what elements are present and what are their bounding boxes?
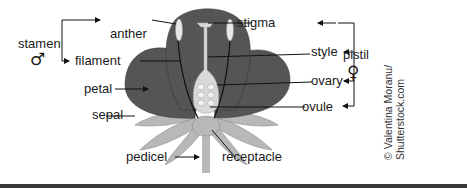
receptacle-shape xyxy=(192,116,220,136)
label-receptacle: receptacle xyxy=(222,150,282,164)
label-stigma: stigma xyxy=(237,16,275,30)
bottom-border xyxy=(0,184,467,188)
label-anther: anther xyxy=(110,27,147,41)
male-symbol-icon: ♂ xyxy=(30,51,45,68)
label-pistil: pistil xyxy=(343,48,369,62)
label-pedicel: pedicel xyxy=(126,150,167,164)
credit-line-1: © Valentina Moranu/ xyxy=(382,65,394,160)
label-petal: petal xyxy=(84,82,112,96)
flower-diagram: stamen ♂ anther filament petal sepal ped… xyxy=(0,0,467,188)
label-filament: filament xyxy=(75,54,121,68)
label-style: style xyxy=(311,45,338,59)
image-credit: © Valentina Moranu/ Shutterstock.com xyxy=(382,65,406,160)
female-symbol-icon: ♀ xyxy=(347,64,359,81)
label-ovary: ovary xyxy=(311,74,343,88)
credit-line-2: Shutterstock.com xyxy=(394,65,406,160)
label-sepal: sepal xyxy=(92,108,123,122)
label-ovule: ovule xyxy=(302,100,333,114)
